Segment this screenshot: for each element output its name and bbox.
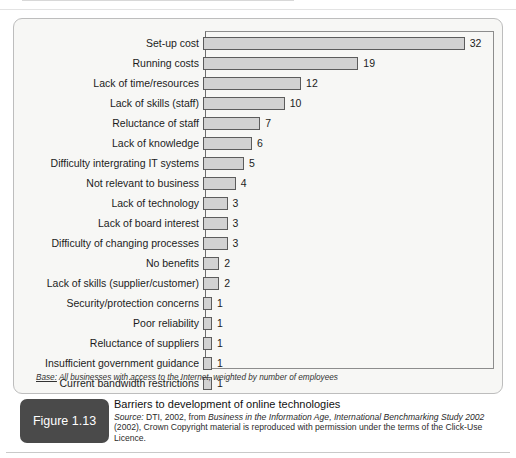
source-text-1: DTI, 2002, from	[144, 412, 208, 422]
bar-row: Lack of knowledge6	[14, 133, 504, 153]
bar-value-label: 1	[217, 297, 223, 309]
bar-category-label: Poor reliability	[14, 317, 203, 329]
bar-row: Lack of board interest3	[14, 213, 504, 233]
bar-value-label: 10	[290, 97, 302, 109]
bar	[203, 277, 219, 290]
bar-row: Lack of technology3	[14, 193, 504, 213]
bar-row: Lack of skills (supplier/customer)2	[14, 273, 504, 293]
bar-row: Difficulty of changing processes3	[14, 233, 504, 253]
bar-row: Difficulty intergrating IT systems5	[14, 153, 504, 173]
bar-zone: 19	[203, 53, 504, 73]
bar-value-label: 32	[470, 37, 482, 49]
bar-zone: 6	[203, 133, 504, 153]
bar-zone: 4	[203, 173, 504, 193]
bar-category-label: Reluctance of staff	[14, 117, 203, 129]
bar-value-label: 6	[257, 137, 263, 149]
bar	[203, 257, 219, 270]
bar-value-label: 2	[224, 277, 230, 289]
bar-zone: 1	[203, 353, 504, 373]
figure-caption-block: Figure 1.13 Barriers to development of o…	[13, 398, 503, 448]
bar	[203, 357, 212, 370]
bar-value-label: 2	[224, 257, 230, 269]
bar-row: Lack of time/resources12	[14, 73, 504, 93]
base-note-text: All businesses with access to the Intern…	[57, 373, 338, 382]
bar	[203, 77, 301, 90]
bar-value-label: 4	[241, 177, 247, 189]
bar-category-label: Lack of knowledge	[14, 137, 203, 149]
bar-zone: 1	[203, 313, 504, 333]
bar-zone: 32	[203, 33, 504, 53]
bar-value-label: 3	[233, 237, 239, 249]
bar-row: Poor reliability1	[14, 313, 504, 333]
bar	[203, 337, 212, 350]
caption-body: Barriers to development of online techno…	[114, 398, 502, 443]
bar-zone: 3	[203, 213, 504, 233]
bar-zone: 10	[203, 93, 504, 113]
bar-zone: 1	[203, 293, 504, 313]
figure-number-badge: Figure 1.13	[20, 399, 109, 443]
bar-category-label: Difficulty intergrating IT systems	[14, 157, 203, 169]
bar-category-label: Lack of time/resources	[14, 77, 203, 89]
bar-category-label: Lack of technology	[14, 197, 203, 209]
bar-category-label: Lack of skills (staff)	[14, 97, 203, 109]
bar-row: Security/protection concerns1	[14, 293, 504, 313]
bar	[203, 237, 228, 250]
chart-panel: Set-up cost32Running costs19Lack of time…	[13, 18, 503, 394]
figure-source: Source: DTI, 2002, from Business in the …	[114, 412, 502, 443]
bar	[203, 37, 465, 50]
base-note-label: Base:	[36, 373, 57, 382]
bar	[203, 137, 252, 150]
bar-category-label: No benefits	[14, 257, 203, 269]
bar-zone: 3	[203, 233, 504, 253]
bar-category-label: Set-up cost	[14, 37, 203, 49]
bar-category-label: Difficulty of changing processes	[14, 237, 203, 249]
source-text-2: (2002), Crown Copyright material is repr…	[114, 422, 482, 442]
bar-category-label: Not relevant to business	[14, 177, 203, 189]
bar-value-label: 12	[306, 77, 318, 89]
base-note: Base: All businesses with access to the …	[36, 373, 338, 382]
bar-row: Lack of skills (staff)10	[14, 93, 504, 113]
bar-value-label: 3	[233, 197, 239, 209]
bar-row: Not relevant to business4	[14, 173, 504, 193]
bar-zone: 7	[203, 113, 504, 133]
bar-category-label: Reluctance of suppliers	[14, 337, 203, 349]
bar-row: Reluctance of suppliers1	[14, 333, 504, 353]
bar-value-label: 5	[249, 157, 255, 169]
bar-zone: 5	[203, 153, 504, 173]
figure-title: Barriers to development of online techno…	[114, 398, 502, 411]
bar-category-label: Security/protection concerns	[14, 297, 203, 309]
bar-value-label: 1	[217, 317, 223, 329]
bar-rows: Set-up cost32Running costs19Lack of time…	[14, 33, 504, 393]
bar	[203, 197, 228, 210]
bar-value-label: 19	[363, 57, 375, 69]
bar	[203, 297, 212, 310]
page-bottom-rule	[6, 452, 510, 453]
bar-zone: 2	[203, 273, 504, 293]
bar-category-label: Lack of board interest	[14, 217, 203, 229]
bar-row: No benefits2	[14, 253, 504, 273]
bar	[203, 317, 212, 330]
bar-value-label: 1	[217, 357, 223, 369]
page-top-rule-secondary	[22, 0, 294, 1]
bar-zone: 12	[203, 73, 504, 93]
bar	[203, 177, 236, 190]
bar-category-label: Insufficient government guidance	[14, 357, 203, 369]
bar-row: Set-up cost32	[14, 33, 504, 53]
bar	[203, 57, 358, 70]
bar-zone: 3	[203, 193, 504, 213]
bar-value-label: 7	[265, 117, 271, 129]
bar-row: Reluctance of staff7	[14, 113, 504, 133]
bar	[203, 217, 228, 230]
bar	[203, 97, 285, 110]
bar-category-label: Lack of skills (supplier/customer)	[14, 277, 203, 289]
bar	[203, 157, 244, 170]
bar-zone: 1	[203, 333, 504, 353]
bar-value-label: 3	[233, 217, 239, 229]
bar	[203, 117, 260, 130]
page-top-rule	[0, 9, 516, 10]
bar-value-label: 1	[217, 337, 223, 349]
source-work-title: Business in the Information Age, Interna…	[208, 412, 484, 422]
plot-wrapper: Set-up cost32Running costs19Lack of time…	[14, 19, 504, 395]
bar-row: Running costs19	[14, 53, 504, 73]
bar-zone: 2	[203, 253, 504, 273]
